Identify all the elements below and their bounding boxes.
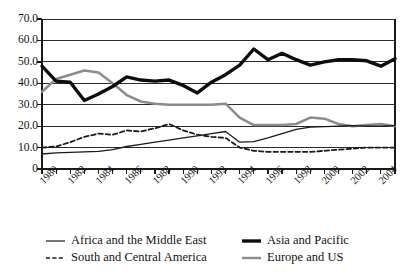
legend-label: Asia and Pacific [267, 234, 349, 247]
legend-entry-africa-and-the-middle-east: Africa and the Middle East [46, 232, 206, 249]
gray-line-marker-icon [242, 252, 261, 264]
legend-entry-asia-and-pacific: Asia and Pacific [242, 232, 349, 249]
x-tick-label: 1996 [264, 164, 286, 186]
legend-label: Europe and US [267, 251, 343, 264]
chart-figure: 70.0 60.0 50.0 40.0 30.0 20.0 10.0 0 [0, 0, 413, 277]
legend-label: South and Central America [71, 251, 207, 264]
x-axis-tick-labels: 1980198219841986198819901992199419961998… [0, 0, 413, 220]
legend-label: Africa and the Middle East [71, 234, 206, 247]
x-tick-label: 1980 [38, 164, 60, 186]
x-tick-label: 1990 [179, 164, 201, 186]
x-tick-label: 2004 [377, 164, 399, 186]
x-tick-label: 1994 [236, 164, 258, 186]
legend-entry-europe-and-us: Europe and US [242, 249, 343, 266]
dashed-line-marker-icon [46, 252, 65, 264]
x-tick-label: 1984 [94, 164, 116, 186]
legend-entry-south-and-central-america: South and Central America [46, 249, 207, 266]
x-tick-label: 1992 [207, 164, 229, 186]
x-tick-label: 1986 [123, 164, 145, 186]
thick-line-marker-icon [242, 235, 261, 247]
chart-legend: Africa and the Middle East Asia and Paci… [46, 232, 396, 272]
x-tick-label: 1982 [66, 164, 88, 186]
x-tick-label: 1988 [151, 164, 173, 186]
x-tick-label: 2000 [320, 164, 342, 186]
thin-line-marker-icon [46, 235, 65, 247]
x-tick-label: 2002 [349, 164, 371, 186]
x-tick-label: 1998 [292, 164, 314, 186]
